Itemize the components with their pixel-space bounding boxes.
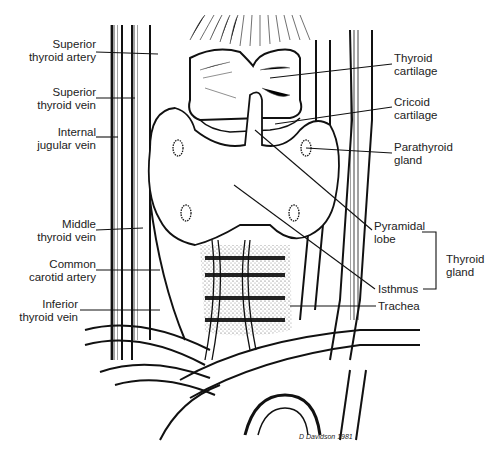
label-superior-thyroid-artery: Superiorthyroid artery bbox=[29, 38, 96, 64]
artist-signature: D Davidson 1981 bbox=[299, 433, 353, 440]
label-parathyroid-gland: Parathyroidgland bbox=[394, 141, 453, 167]
label-trachea: Trachea bbox=[378, 300, 420, 313]
label-isthmus: Isthmus bbox=[378, 283, 418, 296]
label-superior-thyroid-vein: Superiorthyroid vein bbox=[37, 86, 96, 112]
great-vessels bbox=[85, 326, 420, 441]
label-inferior-thyroid-vein: Inferiorthyroid vein bbox=[19, 298, 78, 324]
label-cricoid-cartilage: Cricoidcartilage bbox=[394, 96, 437, 122]
label-common-carotid-artery: Commoncarotid artery bbox=[29, 258, 96, 284]
label-thyroid-cartilage: Thyroidcartilage bbox=[394, 52, 437, 78]
label-thyroid-gland-bracket: Thyroidgland bbox=[446, 253, 484, 279]
label-internal-jugular-vein: Internaljugular vein bbox=[37, 126, 96, 152]
label-middle-thyroid-vein: Middlethyroid vein bbox=[37, 218, 96, 244]
anatomy-diagram: Superiorthyroid artery Superiorthyroid v… bbox=[0, 0, 500, 462]
membrane-fibers bbox=[190, 15, 310, 46]
label-pyramidal-lobe: Pyramidallobe bbox=[374, 220, 425, 246]
thyroid-cartilage-shape bbox=[189, 50, 301, 120]
